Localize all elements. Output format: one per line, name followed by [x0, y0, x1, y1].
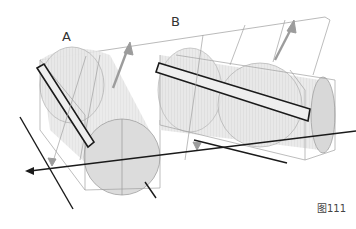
cylinder-a	[40, 47, 160, 195]
arrow-up-icon	[124, 42, 133, 55]
figure-caption: 图111	[317, 200, 346, 215]
arrow-left-icon	[25, 167, 34, 175]
cylinder-b	[158, 48, 335, 160]
arrow-down-icon	[48, 158, 56, 166]
label-a: A	[62, 29, 71, 44]
label-b: B	[171, 14, 180, 29]
cylinder-diagram	[0, 0, 356, 229]
cylinder-b-end-face	[311, 77, 335, 153]
arrow-down-icon	[193, 142, 201, 150]
